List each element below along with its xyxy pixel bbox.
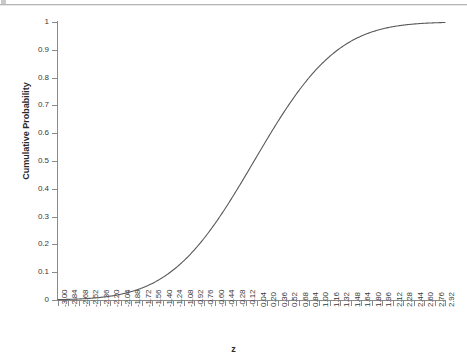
y-axis-tick bbox=[52, 78, 57, 79]
x-axis-tick bbox=[142, 301, 143, 306]
y-axis-tick bbox=[52, 189, 57, 190]
cdf-curve bbox=[58, 22, 445, 300]
y-axis-tick-label: 0.7 bbox=[38, 101, 49, 109]
x-axis-tick bbox=[330, 301, 331, 306]
y-axis-tick-label: 0 bbox=[45, 296, 49, 304]
x-axis-tick bbox=[100, 301, 101, 306]
y-axis-tick bbox=[52, 217, 57, 218]
y-axis-tick-label: 0.6 bbox=[38, 129, 49, 137]
y-axis-tick bbox=[52, 105, 57, 106]
x-axis-tick bbox=[257, 301, 258, 306]
x-axis-tick bbox=[393, 301, 394, 306]
y-axis-tick bbox=[52, 133, 57, 134]
x-axis-tick bbox=[278, 301, 279, 306]
x-axis-tick bbox=[163, 301, 164, 306]
y-axis-tick-label: 0.3 bbox=[38, 213, 49, 221]
cumulative-probability-chart: 00.10.20.30.40.50.60.70.80.91 Cumulative… bbox=[0, 0, 467, 361]
x-axis-tick bbox=[58, 301, 59, 306]
x-axis-tick bbox=[299, 301, 300, 306]
x-axis-title: z bbox=[0, 344, 467, 354]
y-axis-tick-label: 0.2 bbox=[38, 240, 49, 248]
x-axis-tick bbox=[236, 301, 237, 306]
y-axis-title: Cumulative Probability bbox=[21, 61, 31, 201]
y-axis-tick bbox=[52, 300, 57, 301]
y-axis-tick bbox=[52, 244, 57, 245]
x-axis-tick bbox=[372, 301, 373, 306]
y-axis-tick bbox=[52, 50, 57, 51]
y-axis-tick bbox=[52, 22, 57, 23]
y-axis-tick-label: 1 bbox=[45, 18, 49, 26]
x-axis-tick bbox=[184, 301, 185, 306]
y-axis-tick bbox=[52, 161, 57, 162]
y-axis-tick-label: 0.9 bbox=[38, 46, 49, 54]
y-axis-tick bbox=[52, 272, 57, 273]
x-axis-tick-label: 2.92 bbox=[448, 292, 456, 307]
y-axis-tick-label: 0.1 bbox=[38, 268, 49, 276]
x-axis-tick bbox=[121, 301, 122, 306]
x-axis-tick bbox=[215, 301, 216, 306]
x-axis-tick bbox=[435, 301, 436, 306]
chart-page: 00.10.20.30.40.50.60.70.80.91 Cumulative… bbox=[0, 0, 467, 361]
x-axis-tick bbox=[351, 301, 352, 306]
y-axis-tick-label: 0.8 bbox=[38, 74, 49, 82]
y-axis-tick-label: 0.5 bbox=[38, 157, 49, 165]
y-axis-tick-label: 0.4 bbox=[38, 185, 49, 193]
x-axis-tick bbox=[414, 301, 415, 306]
x-axis-tick bbox=[79, 301, 80, 306]
